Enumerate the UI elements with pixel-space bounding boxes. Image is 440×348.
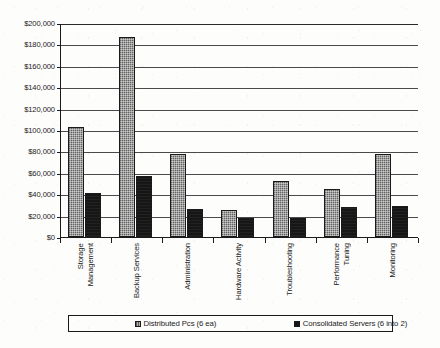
- y-axis-tick-label: $160,000: [24, 62, 55, 71]
- y-axis-tick-label: $140,000: [24, 83, 55, 92]
- x-axis-category-text: Administration: [183, 243, 193, 290]
- x-axis-tick: [162, 238, 163, 243]
- x-axis-tick: [316, 238, 317, 243]
- bar[interactable]: [341, 207, 357, 237]
- x-axis-category-text: Storage Management: [76, 243, 95, 286]
- bar-group: [317, 24, 368, 237]
- bar[interactable]: [187, 209, 203, 237]
- legend-label: Distributed Pcs (6 ea): [144, 319, 217, 328]
- legend-entry[interactable]: Distributed Pcs (6 ea): [135, 319, 216, 328]
- x-axis-tick: [60, 238, 61, 243]
- bar-group: [266, 24, 317, 237]
- y-axis-tick-label: $80,000: [28, 147, 55, 156]
- x-axis-category-text: Hardware Activity: [234, 243, 244, 300]
- x-axis-category-label: Troubleshooting: [267, 243, 313, 307]
- legend-swatch-icon: [135, 321, 141, 327]
- x-axis-tick: [367, 238, 368, 243]
- bar-group: [112, 24, 163, 237]
- bar-group: [214, 24, 265, 237]
- bar[interactable]: [238, 218, 254, 237]
- bar[interactable]: [170, 154, 186, 237]
- x-axis-category-text: Troubleshooting: [285, 243, 295, 296]
- bar-group: [368, 24, 419, 237]
- y-axis-tick-label: $20,000: [28, 212, 55, 221]
- x-axis-category-label: Monitoring: [369, 243, 415, 307]
- plot-area: [60, 24, 418, 238]
- bar[interactable]: [85, 193, 101, 237]
- x-axis-category-label: Hardware Activity: [216, 243, 262, 307]
- bar[interactable]: [392, 206, 408, 237]
- y-axis-tick-label: $200,000: [24, 19, 55, 28]
- bar[interactable]: [290, 218, 306, 237]
- x-axis-category-label: Backup Services: [114, 243, 160, 307]
- y-axis-tick-label: $40,000: [28, 190, 55, 199]
- x-axis-category-text: Backup Services: [132, 243, 142, 298]
- bar[interactable]: [136, 176, 152, 237]
- y-axis-tick-label: $120,000: [24, 105, 55, 114]
- bar[interactable]: [324, 189, 340, 237]
- bar[interactable]: [375, 154, 391, 237]
- y-axis-labels: $200,000$180,000$160,000$140,000$120,000…: [0, 24, 55, 238]
- x-axis-category-text: Performance Tuning: [332, 243, 351, 285]
- x-axis-category-text: Monitoring: [388, 243, 398, 277]
- legend-swatch-icon: [294, 321, 300, 327]
- y-axis-tick-label: $180,000: [24, 40, 55, 49]
- x-axis-tick: [418, 238, 419, 243]
- chart-legend: Distributed Pcs (6 ea)Consolidated Serve…: [68, 315, 393, 332]
- x-axis-tick: [111, 238, 112, 243]
- x-axis-tick: [265, 238, 266, 243]
- legend-label: Consolidated Servers (6 into 2): [303, 319, 407, 328]
- x-axis-tick: [213, 238, 214, 243]
- bar[interactable]: [273, 181, 289, 237]
- chart-page: $200,000$180,000$160,000$140,000$120,000…: [0, 0, 440, 348]
- bar[interactable]: [119, 37, 135, 237]
- bar[interactable]: [221, 210, 237, 237]
- bar[interactable]: [68, 127, 84, 237]
- y-axis-tick-label: $60,000: [28, 169, 55, 178]
- y-axis-tick-label: $0: [47, 233, 55, 242]
- x-axis-category-label: Administration: [165, 243, 211, 307]
- x-axis-category-label: Performance Tuning: [318, 243, 364, 307]
- y-axis-tick-label: $100,000: [24, 126, 55, 135]
- x-axis-category-label: Storage Management: [63, 243, 109, 307]
- legend-entry[interactable]: Consolidated Servers (6 into 2): [294, 319, 407, 328]
- bar-group: [163, 24, 214, 237]
- bar-group: [61, 24, 112, 237]
